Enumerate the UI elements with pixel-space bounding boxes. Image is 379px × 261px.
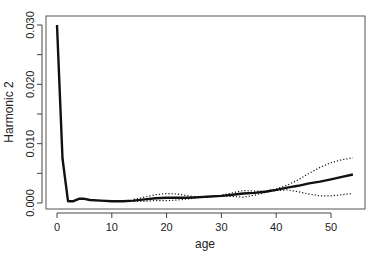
line-estimate xyxy=(57,25,353,201)
y-tick-label: 0.020 xyxy=(24,71,36,99)
x-axis-label: age xyxy=(195,237,215,251)
y-axis-label: Harmonic 2 xyxy=(2,81,16,143)
y-tick-label: 0.010 xyxy=(24,130,36,158)
x-axis: 01020304050 xyxy=(54,213,337,233)
x-tick-label: 50 xyxy=(325,221,337,233)
series-group xyxy=(57,25,353,201)
line-lower-band xyxy=(134,190,353,201)
x-tick-label: 20 xyxy=(160,221,172,233)
x-tick-label: 30 xyxy=(215,221,227,233)
x-tick-label: 40 xyxy=(270,221,282,233)
y-tick-label: 0.030 xyxy=(24,11,36,39)
y-axis: 0.0000.0100.0200.030 xyxy=(24,11,42,217)
x-tick-label: 0 xyxy=(54,221,60,233)
plot-frame xyxy=(46,16,365,209)
x-tick-label: 10 xyxy=(106,221,118,233)
y-tick-label: 0.000 xyxy=(24,189,36,217)
chart: 01020304050 0.0000.0100.0200.030 age Har… xyxy=(0,0,379,261)
